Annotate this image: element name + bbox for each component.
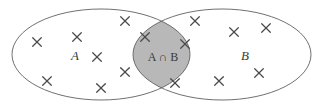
element-mark-b — [191, 17, 200, 26]
set-b-label: B — [241, 48, 249, 63]
element-mark-b — [215, 77, 224, 86]
element-mark-b — [255, 69, 264, 78]
element-mark-a — [73, 33, 82, 42]
element-marks-set-b-only — [191, 17, 271, 86]
venn-diagram-canvas: A B A ∩ B — [0, 0, 321, 109]
element-mark-b — [230, 28, 239, 37]
element-mark-a — [43, 77, 52, 86]
element-mark-a — [33, 38, 42, 47]
intersection-label: A ∩ B — [148, 50, 179, 64]
venn-diagram-figure: A B A ∩ B — [0, 0, 321, 109]
element-mark-a — [93, 53, 102, 62]
element-mark-intersection — [121, 68, 130, 77]
set-a-label: A — [70, 48, 79, 63]
element-marks-set-a-only — [33, 17, 130, 93]
element-mark-a — [97, 84, 106, 93]
element-mark-a — [121, 17, 130, 26]
element-mark-b — [262, 24, 271, 33]
